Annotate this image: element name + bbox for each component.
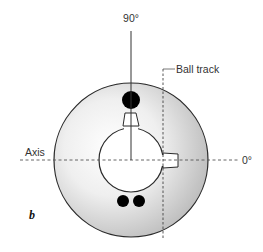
- bowling-ball-diagram: 90° Ball track Axis 0° b: [0, 0, 263, 252]
- label-ball-track: Ball track: [176, 63, 220, 75]
- finger-hole-left: [117, 195, 129, 207]
- label-axis: Axis: [25, 146, 45, 158]
- finger-hole-right: [133, 195, 145, 207]
- protrusion-mask: [161, 155, 164, 166]
- panel-label: b: [29, 208, 35, 222]
- label-90-degrees: 90°: [123, 12, 139, 24]
- side-protrusion: [163, 153, 178, 168]
- label-0-degrees: 0°: [242, 154, 252, 166]
